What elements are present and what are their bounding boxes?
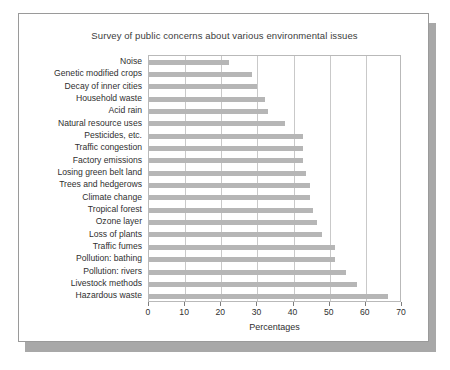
bar-row: [149, 192, 400, 204]
bar-row: [149, 179, 400, 191]
bar-row: [149, 68, 400, 80]
x-tick-mark-10: [184, 302, 185, 306]
x-tick-label-70: 70: [396, 307, 406, 317]
x-tick-label-60: 60: [360, 307, 370, 317]
plot-wrapper: NoiseGenetic modified cropsDecay of inne…: [19, 14, 430, 343]
category-label: Trees and hedgerows: [59, 180, 142, 189]
x-tick-mark-40: [293, 302, 294, 306]
bar-row: [149, 278, 400, 290]
x-axis: 010203040506070: [148, 302, 401, 318]
category-label-row: Pollution: rivers: [19, 265, 146, 277]
bar: [149, 60, 229, 65]
category-label: Decay of inner cities: [65, 82, 142, 91]
category-label-row: Factory emissions: [19, 154, 146, 166]
category-label: Livestock methods: [71, 279, 142, 288]
bar-row: [149, 155, 400, 167]
category-label: Natural resource uses: [58, 119, 142, 128]
x-tick-label-30: 30: [252, 307, 262, 317]
category-label: Climate change: [82, 193, 142, 202]
x-tick-mark-20: [220, 302, 221, 306]
category-label-row: Hazardous waste: [19, 290, 146, 302]
bar-row: [149, 167, 400, 179]
category-label: Genetic modified crops: [54, 69, 142, 78]
plot-area: [148, 55, 401, 302]
category-label: Factory emissions: [73, 156, 142, 165]
category-label-row: Trees and hedgerows: [19, 178, 146, 190]
x-tick-mark-50: [329, 302, 330, 306]
screenshot-root: Survey of public concerns about various …: [0, 0, 450, 370]
category-label: Hazardous waste: [76, 291, 142, 300]
category-label-row: Decay of inner cities: [19, 80, 146, 92]
category-label-row: Noise: [19, 55, 146, 67]
category-label-row: Traffic congestion: [19, 141, 146, 153]
category-label-row: Losing green belt land: [19, 166, 146, 178]
bar: [149, 282, 357, 287]
category-label: Noise: [120, 57, 142, 66]
bar-row: [149, 56, 400, 68]
category-label: Loss of plants: [89, 230, 142, 239]
x-tick-mark-30: [256, 302, 257, 306]
bar-row: [149, 130, 400, 142]
category-label: Acid rain: [109, 106, 142, 115]
bar-row: [149, 266, 400, 278]
bar-row: [149, 105, 400, 117]
category-label-row: Climate change: [19, 191, 146, 203]
bar-row: [149, 229, 400, 241]
bar: [149, 195, 310, 200]
x-tick-label-20: 20: [216, 307, 226, 317]
category-label: Traffic congestion: [75, 143, 142, 152]
bar: [149, 121, 285, 126]
bar: [149, 146, 303, 151]
category-label-row: Loss of plants: [19, 228, 146, 240]
bar: [149, 232, 322, 237]
bar: [149, 134, 303, 139]
bar-row: [149, 241, 400, 253]
bar: [149, 208, 313, 213]
x-tick-label-50: 50: [324, 307, 334, 317]
x-tick-label-10: 10: [179, 307, 189, 317]
bar-row: [149, 142, 400, 154]
category-label: Tropical forest: [88, 205, 142, 214]
bar-row: [149, 204, 400, 216]
bar: [149, 109, 268, 114]
category-label: Traffic fumes: [93, 242, 142, 251]
x-tick-mark-60: [365, 302, 366, 306]
x-tick-label-40: 40: [288, 307, 298, 317]
x-tick-label-0: 0: [146, 307, 151, 317]
category-label: Pollution: bathing: [76, 254, 142, 263]
bar: [149, 97, 265, 102]
bar: [149, 171, 306, 176]
category-label-row: Pesticides, etc.: [19, 129, 146, 141]
category-label-row: Livestock methods: [19, 277, 146, 289]
bar: [149, 257, 335, 262]
bar-row: [149, 118, 400, 130]
category-label: Pesticides, etc.: [84, 131, 142, 140]
bar: [149, 84, 257, 89]
category-label-row: Ozone layer: [19, 215, 146, 227]
bar-row: [149, 254, 400, 266]
x-tick-mark-70: [401, 302, 402, 306]
category-label-row: Natural resource uses: [19, 117, 146, 129]
bar-row: [149, 93, 400, 105]
bar: [149, 294, 388, 299]
category-label-row: Tropical forest: [19, 203, 146, 215]
x-axis-title: Percentages: [148, 322, 401, 332]
chart-card: Survey of public concerns about various …: [18, 13, 429, 342]
bar: [149, 158, 303, 163]
bar: [149, 245, 335, 250]
category-label: Losing green belt land: [57, 168, 142, 177]
category-label: Household waste: [76, 94, 142, 103]
category-label-row: Pollution: bathing: [19, 253, 146, 265]
bar: [149, 183, 310, 188]
category-label-row: Household waste: [19, 92, 146, 104]
category-label-row: Traffic fumes: [19, 240, 146, 252]
category-label: Ozone layer: [96, 217, 142, 226]
bar: [149, 270, 346, 275]
bar: [149, 72, 252, 77]
bar-series: [149, 56, 400, 301]
x-tick-mark-0: [148, 302, 149, 306]
category-label: Pollution: rivers: [83, 267, 142, 276]
category-label-row: Acid rain: [19, 104, 146, 116]
bar: [149, 220, 317, 225]
bar-row: [149, 81, 400, 93]
